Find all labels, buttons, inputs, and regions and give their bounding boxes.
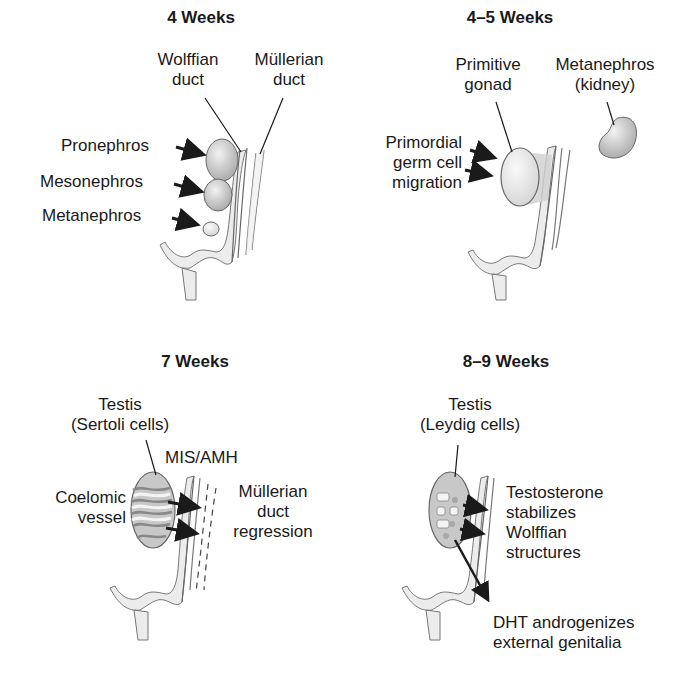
label-mullerian-duct: Müllerian duct: [255, 50, 324, 90]
label-metanephros: Metanephros: [42, 206, 141, 226]
label-primitive-gonad: Primitive gonad: [455, 55, 520, 95]
label-dht-androgenizes: DHT androgenizes external genitalia: [493, 613, 634, 653]
diagram-artwork: [0, 0, 681, 684]
panel-7-weeks-art: [110, 440, 216, 640]
metanephros-organ: [203, 222, 219, 236]
label-metanephros-kidney: Metanephros (kidney): [555, 55, 654, 95]
label-mis-amh: MIS/AMH: [165, 448, 238, 468]
panel-4-weeks-art: [160, 98, 283, 300]
panel-title-4-5-weeks: 4–5 Weeks: [467, 8, 554, 28]
label-testis-leydig: Testis (Leydig cells): [420, 395, 520, 435]
panel-8-9-weeks-art: [402, 445, 494, 640]
label-mullerian-duct-regression: Müllerian duct regression: [233, 482, 312, 542]
mesonephros-organ: [204, 179, 232, 211]
panel-title-8-9-weeks: 8–9 Weeks: [463, 352, 550, 372]
label-pronephros: Pronephros: [61, 136, 149, 156]
label-mesonephros: Mesonephros: [40, 172, 143, 192]
label-coelomic-vessel: Coelomic vessel: [30, 488, 126, 528]
label-wolffian-duct: Wolffian duct: [158, 50, 219, 90]
label-primordial-germ-cell-migration: Primordial germ cell migration: [362, 133, 462, 193]
panel-title-7-weeks: 7 Weeks: [161, 352, 229, 372]
label-testosterone-stabilizes: Testosterone stabilizes Wolffian structu…: [506, 483, 603, 563]
label-testis-sertoli: Testis (Sertoli cells): [71, 395, 169, 435]
panel-title-4-weeks: 4 Weeks: [167, 8, 235, 28]
panel-4-5-weeks-art: [465, 102, 636, 300]
metanephros-kidney-organ: [599, 117, 636, 158]
primitive-gonad-organ: [501, 148, 539, 206]
pronephros-organ: [206, 139, 238, 181]
